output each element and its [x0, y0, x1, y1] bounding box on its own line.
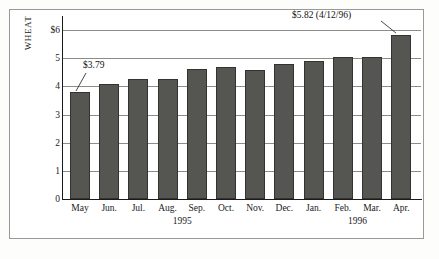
y-tick-label: $6: [38, 25, 60, 35]
bar: [99, 84, 119, 199]
chart-figure: WHEAT $6543210 MayJun.Jul.Aug.Sep.Oct.No…: [0, 0, 439, 259]
y-tick-label: 3: [38, 110, 60, 120]
bar: [245, 70, 265, 199]
y-tick-label: 2: [38, 138, 60, 148]
x-axis-year-label: 1996: [340, 215, 374, 227]
annotation-label-last: $5.82 (4/12/96): [292, 10, 351, 21]
bar: [158, 79, 178, 199]
y-axis-line: [62, 16, 63, 200]
y-tick-label: 5: [38, 53, 60, 63]
bar: [187, 69, 207, 199]
bar-series: [64, 16, 422, 199]
x-axis-year-label: 1995: [165, 215, 199, 227]
bar: [128, 79, 148, 199]
y-axis-ticks: $6543210: [33, 0, 60, 259]
y-tick-label: 4: [38, 81, 60, 91]
y-tick-label: 0: [38, 194, 60, 204]
bar: [274, 64, 294, 199]
x-axis-line: [62, 199, 422, 200]
bar: [304, 61, 324, 199]
x-tick-label: Apr.: [384, 202, 418, 214]
bar: [70, 92, 90, 199]
bar: [391, 35, 411, 199]
y-tick-label: 1: [38, 166, 60, 176]
bar: [216, 67, 236, 199]
y-axis-title: WHEAT: [23, 3, 33, 63]
x-axis-year-groups: 19951996: [64, 215, 422, 231]
bar: [362, 57, 382, 199]
bar: [333, 57, 353, 199]
annotation-label-first: $3.79: [83, 60, 104, 71]
